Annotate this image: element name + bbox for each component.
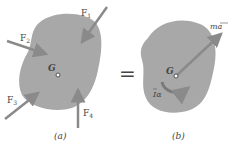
- force-f3-label: F3: [7, 95, 17, 106]
- caption-a: (a): [54, 131, 67, 141]
- diagram-canvas: G F1 F2 F3 F4 (a) = ma Iα G (b): [0, 0, 238, 148]
- force-f2-label: F2: [20, 33, 30, 44]
- force-f1-label: F1: [81, 8, 91, 19]
- angular-acceleration-label: Iα: [152, 90, 162, 99]
- center-label-a: G: [48, 63, 56, 73]
- force-f4-label: F4: [83, 108, 93, 119]
- rigid-body-a: [19, 14, 101, 110]
- center-of-mass-a: [56, 73, 60, 77]
- caption-b: (b): [172, 131, 185, 141]
- center-label-b: G: [166, 66, 174, 76]
- linear-acceleration-label: ma: [210, 22, 223, 31]
- equals-sign: =: [119, 62, 136, 86]
- center-of-mass-b: [174, 74, 178, 78]
